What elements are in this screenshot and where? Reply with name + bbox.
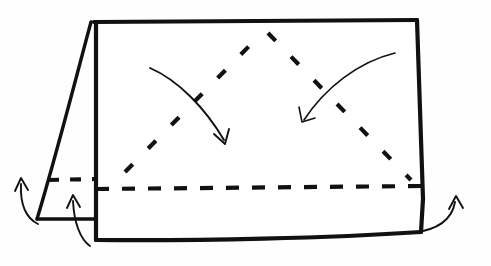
flap-arrow-inner-left-shaft <box>73 201 90 246</box>
left-flap-outer-edge <box>37 22 91 219</box>
main-panel-top-edge <box>94 20 417 22</box>
flap-arrow-outer-left-shaft <box>21 184 38 224</box>
diagram-canvas <box>0 0 491 266</box>
flap-fold-line <box>48 179 94 180</box>
main-panel-fill <box>96 20 424 240</box>
flap-arrow-right-head <box>449 196 463 209</box>
folding-diagram <box>0 0 491 266</box>
flap-arrow-outer-left <box>15 178 38 224</box>
